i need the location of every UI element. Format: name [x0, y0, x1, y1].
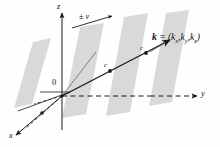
secondary-ray: [62, 52, 96, 96]
axis-x-line: [16, 96, 62, 135]
k-equals-open: = (: [157, 32, 171, 42]
k-vector-arrow: [62, 40, 170, 96]
k-marker-dot-2: [144, 51, 148, 55]
origin-dot: [60, 94, 63, 97]
k-label-leader: [150, 44, 163, 52]
k-close-paren: ): [197, 32, 200, 42]
propagation-arrow: [72, 16, 112, 28]
axis-z-label: z: [57, 2, 60, 11]
wave-vector-figure: k = (kx,ky,kz) z y x 0 ± v c c: [0, 0, 220, 147]
origin-label: 0: [52, 78, 56, 87]
x-axis-dot: [40, 111, 44, 115]
axis-y-label: y: [201, 89, 205, 98]
axes-and-vector-layer: [0, 0, 220, 147]
propagation-speed-label: ± v: [79, 13, 89, 21]
k-vector-label: k = (kx,ky,kz): [152, 33, 200, 44]
axis-x-label: x: [9, 131, 13, 140]
k-marker-label-1: c: [104, 62, 107, 69]
k-marker-label-2: c: [140, 45, 143, 52]
k-marker-dot-1: [108, 69, 112, 73]
